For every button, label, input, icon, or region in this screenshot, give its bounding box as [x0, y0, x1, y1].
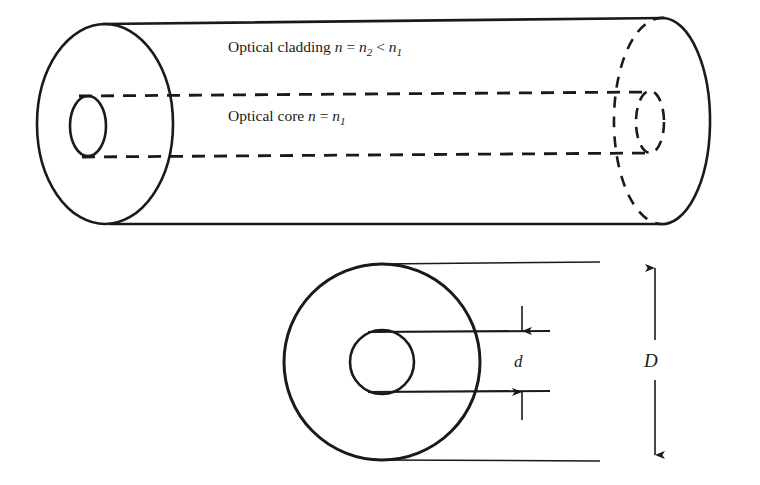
- cladding-label-var-n2: n: [359, 38, 367, 55]
- core-diameter-label: d: [514, 352, 523, 372]
- cladding-label-less-than: <: [372, 38, 389, 55]
- core-label-prefix: Optical core: [228, 107, 308, 124]
- cladding-label-var-n1: n: [389, 38, 397, 55]
- cladding-label-var-n: n: [335, 38, 343, 55]
- core-label-var-n: n: [308, 107, 316, 124]
- core-label-sub-1: 1: [340, 115, 346, 127]
- cladding-label-sub-2: 2: [367, 46, 373, 58]
- core-right-face-hidden-ellipse: [636, 91, 664, 153]
- cladding-diameter-label: D: [644, 350, 658, 372]
- core-left-face-ellipse: [70, 96, 106, 156]
- core-hidden-top-line: [79, 92, 650, 96]
- core-label-equals: =: [316, 107, 333, 124]
- core-hidden-bottom-line: [82, 153, 650, 157]
- core-label-var-n1: n: [332, 107, 340, 124]
- fiber-diagram-svg: [0, 0, 760, 485]
- cladding-right-face-visible-arc: [660, 18, 710, 224]
- optical-fiber-figure: Optical cladding n = n2 < n1 Optical cor…: [0, 0, 760, 485]
- core-label: Optical core n = n1: [228, 107, 346, 125]
- cylinder-top-edge: [103, 18, 664, 24]
- cladding-extension-line-top: [380, 262, 600, 264]
- fiber-cross-section-group: [284, 262, 655, 461]
- core-cross-section-circle: [350, 330, 414, 394]
- cladding-label-prefix: Optical cladding: [228, 38, 335, 55]
- cladding-extension-line-bottom: [380, 460, 600, 461]
- cladding-label-sub-1: 1: [397, 46, 403, 58]
- core-extension-line-bottom: [368, 391, 550, 392]
- cladding-label-equals: =: [343, 38, 360, 55]
- core-extension-line-top: [368, 331, 550, 332]
- cladding-right-face-hidden-arc: [614, 18, 664, 224]
- cladding-cross-section-circle: [284, 264, 480, 460]
- cladding-label: Optical cladding n = n2 < n1: [228, 38, 402, 56]
